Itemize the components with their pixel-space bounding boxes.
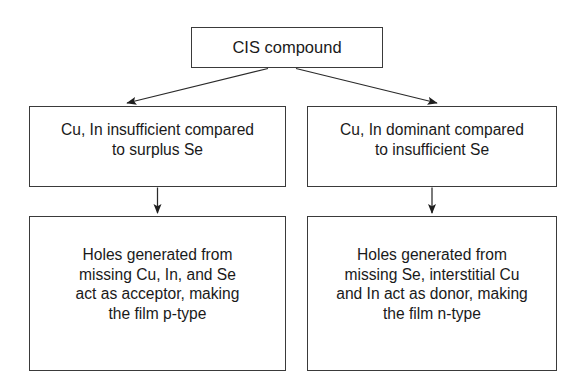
node-cu-in-insufficient: Cu, In insufficient compared to surplus …	[29, 106, 286, 187]
node-n-type-result-label: Holes generated from missing Se, interst…	[308, 245, 556, 324]
node-cu-in-insufficient-label: Cu, In insufficient compared to surplus …	[30, 120, 285, 159]
node-cis-compound: CIS compound	[191, 27, 383, 68]
node-n-type-result: Holes generated from missing Se, interst…	[307, 216, 557, 371]
node-cu-in-dominant: Cu, In dominant compared to insufficient…	[307, 106, 557, 187]
node-p-type-result-label: Holes generated from missing Cu, In, and…	[30, 245, 285, 324]
edge-root-to-mid-left	[127, 69, 268, 104]
edge-root-to-mid-right	[296, 69, 437, 104]
node-cis-compound-label: CIS compound	[192, 37, 382, 58]
node-p-type-result: Holes generated from missing Cu, In, and…	[29, 216, 286, 371]
node-cu-in-dominant-label: Cu, In dominant compared to insufficient…	[308, 120, 556, 159]
